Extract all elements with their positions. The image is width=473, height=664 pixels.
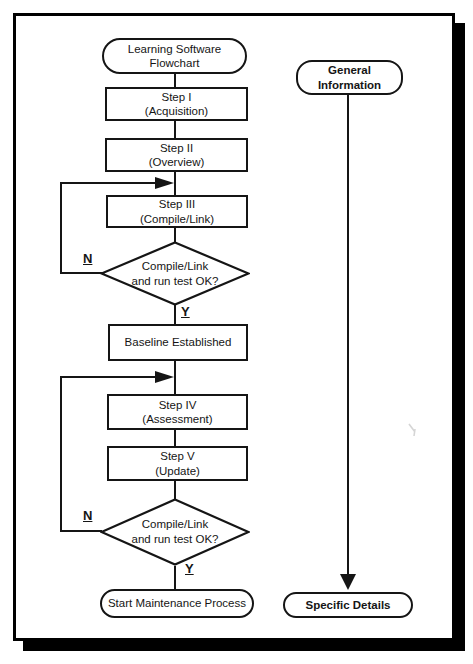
decision1-yes-label: Y: [181, 304, 190, 319]
node-start-terminal: Learning Software Flowchart: [102, 38, 247, 74]
node-end-line1: Start Maintenance Process: [108, 596, 246, 610]
loop2-vertical-segment: [60, 376, 62, 532]
decision2-line1: Compile/Link: [142, 517, 208, 532]
connector-decision2-end: [174, 566, 176, 590]
node-step5-line2: (Update): [155, 464, 200, 478]
decision1-line2: and run test OK?: [132, 274, 219, 289]
node-decision2: Compile/Link and run test OK?: [100, 498, 250, 566]
node-general-information: General Information: [296, 60, 403, 95]
decision1-no-label: N: [83, 251, 92, 266]
node-step5-line1: Step V: [160, 449, 195, 463]
node-step3-line1: Step III: [159, 197, 195, 211]
node-baseline-line1: Baseline Established: [125, 335, 232, 349]
node-step1: Step I (Acquisition): [105, 87, 248, 121]
decision2-yes-label: Y: [185, 561, 194, 576]
node-specific-details: Specific Details: [283, 592, 413, 618]
node-step2-line1: Step II: [160, 141, 193, 155]
node-start-line2: Flowchart: [150, 56, 200, 70]
decision1-text: Compile/Link and run test OK?: [100, 241, 250, 306]
node-step4-line1: Step IV: [159, 398, 197, 412]
node-step4: Step IV (Assessment): [107, 394, 248, 430]
node-decision1: Compile/Link and run test OK?: [100, 241, 250, 306]
sidebar-arrowhead-icon: [340, 574, 356, 590]
decision2-line2: and run test OK?: [132, 532, 219, 547]
connector-step4-step5: [174, 430, 176, 447]
node-step3: Step III (Compile/Link): [106, 195, 248, 228]
node-step1-line2: (Acquisition): [145, 104, 208, 118]
print-artifact: [406, 422, 420, 440]
loop1-top-segment: [60, 182, 156, 184]
node-baseline: Baseline Established: [108, 324, 248, 361]
general-information-line1: General: [328, 63, 371, 77]
loop1-arrowhead-icon: [155, 177, 174, 189]
scanned-flowchart-page: N N Y Y Learning Software Flowchart Step…: [0, 0, 473, 664]
loop2-bottom-segment: [60, 530, 102, 532]
node-step2: Step II (Overview): [105, 138, 248, 172]
connector-step1-step2: [174, 121, 176, 138]
loop2-top-segment: [60, 376, 156, 378]
decision1-line1: Compile/Link: [142, 259, 208, 274]
node-step2-line2: (Overview): [149, 155, 205, 169]
loop1-vertical-segment: [60, 182, 62, 274]
node-start-line1: Learning Software: [128, 42, 221, 56]
node-step1-line1: Step I: [161, 90, 191, 104]
sidebar-connector-line: [347, 95, 349, 576]
loop2-arrowhead-icon: [155, 371, 174, 383]
connector-step5-decision2: [174, 481, 176, 499]
decision2-no-label: N: [83, 508, 92, 523]
connector-step3-decision1: [174, 228, 176, 242]
connector-baseline-step4: [174, 361, 176, 395]
node-step4-line2: (Assessment): [142, 412, 212, 426]
connector-step2-step3: [174, 172, 176, 196]
general-information-line2: Information: [318, 78, 381, 92]
connector-start-step1: [174, 74, 176, 87]
specific-details-line1: Specific Details: [305, 598, 390, 612]
loop1-bottom-segment: [60, 272, 102, 274]
decision2-text: Compile/Link and run test OK?: [100, 498, 250, 566]
node-end-terminal: Start Maintenance Process: [100, 589, 254, 618]
node-step3-line2: (Compile/Link): [140, 212, 214, 226]
node-step5: Step V (Update): [107, 446, 248, 481]
connector-decision1-baseline: [174, 305, 176, 324]
